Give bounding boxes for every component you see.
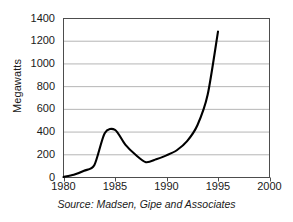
y-tick-label: 800	[21, 81, 55, 92]
gridlines-group	[64, 19, 270, 178]
y-tick-label: 1200	[21, 35, 55, 46]
y-tick-label: 1000	[21, 58, 55, 69]
chart-figure: Megawatts 0200400600800100012001400 1980…	[0, 0, 293, 222]
y-tick-label-wrap: 200	[21, 149, 55, 150]
y-tick-label-wrap: 800	[21, 81, 55, 82]
y-tick-label-wrap: 400	[21, 126, 55, 127]
y-tick-label-wrap: 0	[21, 172, 55, 173]
x-tick-label: 2000	[250, 180, 290, 192]
y-tick-label-wrap: 1200	[21, 35, 55, 36]
y-tick-label-wrap: 1000	[21, 58, 55, 59]
source-caption: Source: Madsen, Gipe and Associates	[0, 198, 293, 210]
y-tick-label: 600	[21, 103, 55, 114]
plot-frame-border	[64, 19, 270, 178]
x-tick-label: 1980	[44, 180, 84, 192]
y-tick-label: 200	[21, 149, 55, 160]
y-tick-label: 400	[21, 126, 55, 137]
x-tick-label: 1990	[147, 180, 187, 192]
x-tick-label: 1985	[95, 180, 135, 192]
x-tick-label: 1995	[198, 180, 238, 192]
y-tick-label-wrap: 600	[21, 103, 55, 104]
y-tick-label-wrap: 1400	[21, 13, 55, 14]
y-tick-label: 1400	[21, 13, 55, 24]
